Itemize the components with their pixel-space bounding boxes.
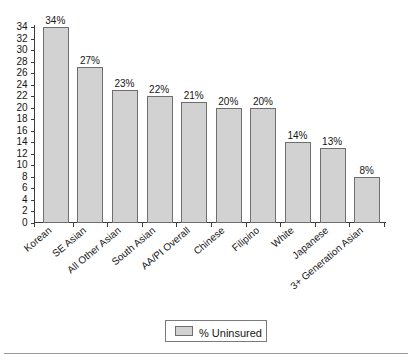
y-tick-label: 8	[22, 171, 28, 182]
bar	[78, 68, 103, 223]
y-tick-label: 20	[16, 102, 28, 113]
y-tick-label: 24	[16, 79, 28, 90]
uninsured-rate-bar-chart: 0246810121416182022242628303234 34%27%23…	[0, 0, 412, 360]
bar-value-label: 27%	[80, 55, 100, 66]
bar-value-label: 20%	[253, 96, 273, 107]
y-tick-label: 28	[16, 56, 28, 67]
bar	[355, 178, 380, 223]
chart-canvas: 0246810121416182022242628303234 34%27%23…	[0, 0, 412, 360]
y-tick-label: 22	[16, 90, 28, 101]
y-tick-label: 12	[16, 148, 28, 159]
y-tick-label: 26	[16, 67, 28, 78]
y-tick-label: 32	[16, 33, 28, 44]
bar	[321, 149, 346, 223]
bar	[251, 109, 276, 223]
bar-value-label: 23%	[114, 78, 134, 89]
y-tick-label: 0	[22, 217, 28, 228]
bar-value-label: 8%	[359, 165, 374, 176]
bar	[113, 91, 138, 223]
y-tick-label: 18	[16, 113, 28, 124]
y-tick-label: 6	[22, 182, 28, 193]
bar	[182, 103, 207, 223]
bar	[148, 97, 173, 223]
y-tick-label: 34	[16, 21, 28, 32]
bar-value-label: 13%	[322, 136, 342, 147]
y-tick-label: 30	[16, 44, 28, 55]
y-tick-label: 14	[16, 136, 28, 147]
legend-swatch-uninsured	[176, 327, 193, 336]
y-tick-label: 4	[22, 194, 28, 205]
bar-value-label: 21%	[184, 90, 204, 101]
y-tick-label: 2	[22, 205, 28, 216]
bar	[44, 28, 69, 223]
legend-label-uninsured: % Uninsured	[199, 327, 262, 339]
bar	[286, 143, 311, 223]
legend: % Uninsured	[166, 321, 267, 342]
bar-value-label: 22%	[149, 84, 169, 95]
bar-value-label: 14%	[287, 130, 307, 141]
y-tick-label: 10	[16, 159, 28, 170]
bar-value-label: 34%	[45, 15, 65, 26]
bar	[217, 109, 242, 223]
bar-value-label: 20%	[218, 96, 238, 107]
y-tick-label: 16	[16, 125, 28, 136]
